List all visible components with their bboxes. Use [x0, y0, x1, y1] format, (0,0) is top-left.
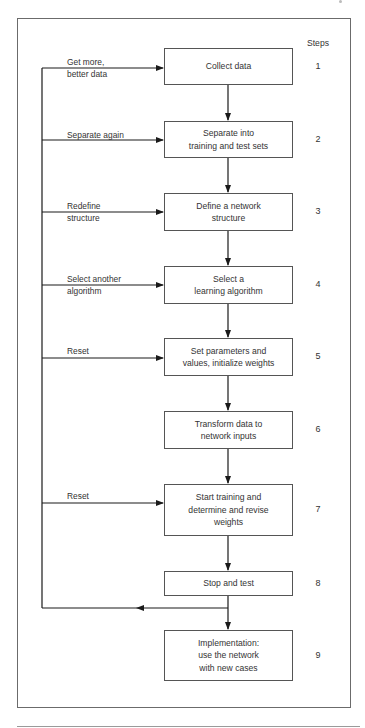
- feedback-label-4: Select another algorithm: [67, 273, 121, 297]
- step-number-8: 8: [308, 578, 328, 588]
- step-box-1: Collect data: [164, 48, 293, 85]
- feedback-label-3: Redefine structure: [67, 200, 101, 224]
- steps-header: Steps: [300, 38, 336, 48]
- step-box-2: Separate into training and test sets: [164, 121, 293, 158]
- feedback-label-1: Get more, better data: [67, 56, 107, 80]
- feedback-label-5: Reset: [67, 345, 89, 357]
- step-number-2: 2: [308, 134, 328, 144]
- step-number-6: 6: [308, 424, 328, 434]
- step-box-8: Stop and test: [164, 571, 293, 596]
- step-box-6: Transform data to network inputs: [164, 411, 293, 449]
- step-box-4: Select a learning algorithm: [164, 266, 293, 304]
- step-number-1: 1: [308, 61, 328, 71]
- step-number-3: 3: [308, 206, 328, 216]
- step-box-5: Set parameters and values, initialize we…: [164, 338, 293, 376]
- step-number-9: 9: [308, 650, 328, 660]
- step-number-7: 7: [308, 504, 328, 514]
- feedback-label-7: Reset: [67, 490, 89, 502]
- step-number-4: 4: [308, 279, 328, 289]
- step-box-9: Implementation: use the network with new…: [164, 630, 293, 681]
- feedback-label-2: Separate again: [67, 129, 124, 141]
- step-box-7: Start training and determine and revise …: [164, 484, 293, 536]
- step-box-3: Define a network structure: [164, 193, 293, 231]
- step-number-5: 5: [308, 351, 328, 361]
